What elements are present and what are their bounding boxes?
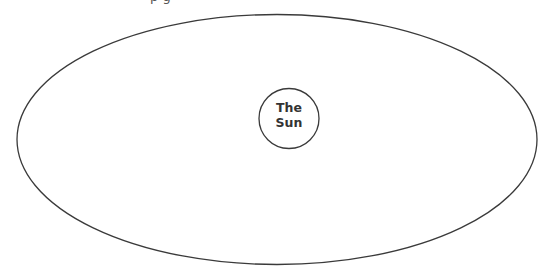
sun-label-line2: Sun [259,115,319,130]
orbit-ellipse [17,15,537,265]
sun-label-line1: The [259,100,319,115]
orbit-diagram [0,0,558,278]
sun-label: The Sun [259,100,319,130]
